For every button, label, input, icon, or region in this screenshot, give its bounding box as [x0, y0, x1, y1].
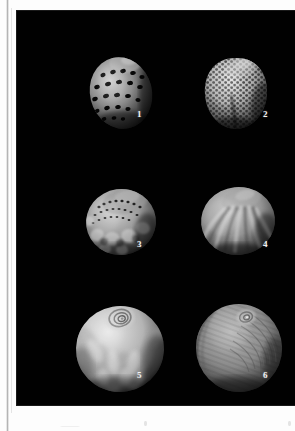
figure-label-6: 6 [263, 371, 268, 380]
plate-image: 1 2 3 4 5 6 [17, 11, 295, 405]
page-gutter-line [11, 8, 12, 413]
figure-label-2: 2 [263, 110, 268, 119]
page-gutter-shadow [6, 0, 9, 431]
scan-speck [144, 421, 147, 426]
figure-label-4: 4 [263, 240, 268, 249]
scan-speck [288, 421, 291, 426]
figure-label-3: 3 [137, 240, 142, 249]
scan-speck [60, 426, 80, 427]
scanned-page: 1 2 3 4 5 6 [0, 0, 295, 431]
figure-label-5: 5 [137, 371, 142, 380]
specimen-canvas [17, 11, 295, 405]
figure-label-1: 1 [137, 110, 142, 119]
